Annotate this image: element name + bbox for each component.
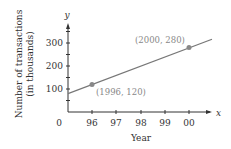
x-axis-symbol: x	[216, 108, 221, 118]
y-tick-label: 200	[46, 61, 63, 71]
data-point	[90, 82, 95, 87]
point-label: (2000, 280)	[135, 35, 185, 45]
x-tick-label: 00	[183, 118, 195, 128]
y-axis-symbol: y	[63, 10, 70, 20]
data-point	[187, 45, 192, 50]
y-tick-label: 100	[46, 84, 63, 94]
svg-text:Number of transactions: Number of transactions	[14, 9, 24, 118]
x-tick-label: 96	[86, 118, 98, 128]
origin-label: 0	[56, 118, 62, 128]
point-label: (1996, 120)	[96, 87, 146, 97]
y-tick-label: 300	[46, 38, 63, 48]
chart: 100 200 300 96 97 98 99 00 0 x y Year Nu…	[0, 0, 231, 149]
x-tick-label: 97	[110, 118, 122, 128]
x-axis-arrow-icon	[206, 110, 212, 114]
svg-text:(in thousands): (in thousands)	[25, 31, 35, 96]
y-axis-title: Number of transactions (in thousands)	[14, 9, 35, 118]
x-tick-label: 99	[159, 118, 171, 128]
y-axis-arrow-icon	[66, 23, 70, 29]
x-tick-label: 98	[135, 118, 147, 128]
x-axis-title: Year	[130, 133, 152, 143]
